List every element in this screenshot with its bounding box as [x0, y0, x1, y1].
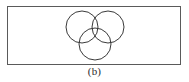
figure-caption-label: (b) — [0, 64, 189, 78]
figure-container: (b) — [0, 0, 189, 82]
